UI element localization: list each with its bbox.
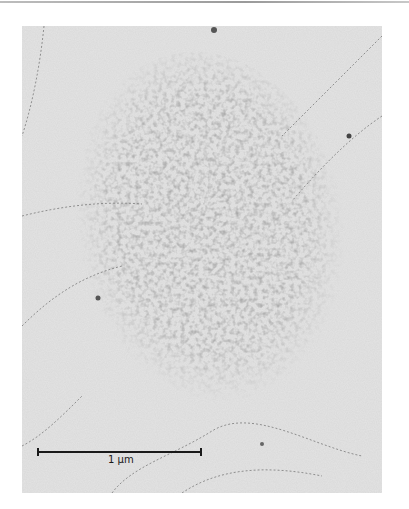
micrograph-texture xyxy=(22,26,382,493)
scale-bar-label: 1 µm xyxy=(108,454,134,465)
scale-bar xyxy=(37,451,202,453)
micrograph-image: 1 µm xyxy=(22,26,382,493)
top-rule xyxy=(0,1,409,3)
